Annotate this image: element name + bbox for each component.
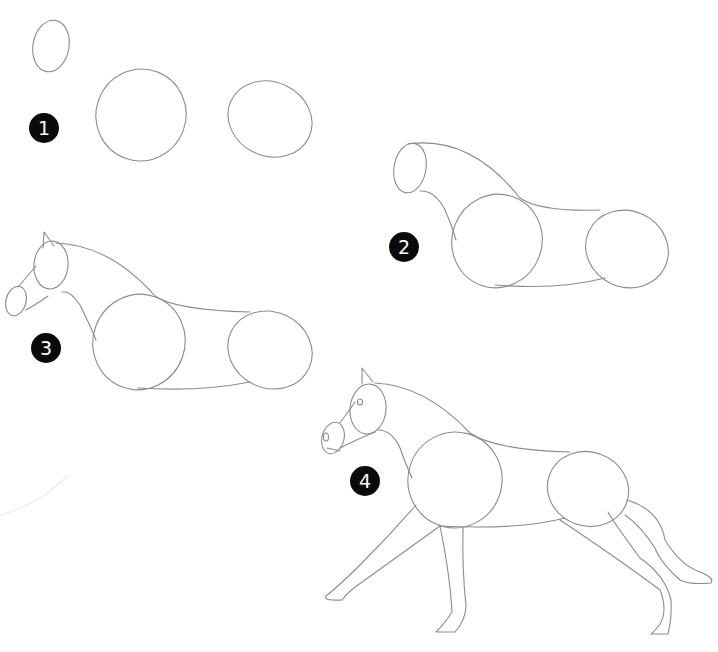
chest-oval [79, 281, 198, 403]
ear [362, 368, 373, 384]
neck-bottom-line [420, 191, 456, 240]
muzzle-bottom-line [340, 432, 375, 448]
hip-oval [215, 67, 324, 170]
neck-bottom-line [62, 292, 96, 340]
step-1-drawing [29, 17, 325, 173]
head-oval [32, 240, 70, 291]
neck-top-line [56, 243, 250, 312]
neck-top-line [408, 143, 600, 210]
step-badge-4: 4 [350, 466, 380, 496]
head-oval [29, 17, 73, 74]
chest-oval [439, 181, 556, 300]
belly-line [440, 518, 565, 527]
step-badge-1: 1 [29, 113, 59, 143]
neck-bottom-line [378, 430, 412, 478]
drawing-canvas [0, 0, 718, 652]
muzzle-oval [2, 284, 29, 318]
chest-oval [397, 421, 513, 538]
hip-oval [215, 297, 325, 402]
tail [625, 500, 712, 584]
step-3-drawing [2, 232, 325, 403]
mouth-line [327, 448, 340, 451]
eye [358, 399, 363, 405]
chest-oval [83, 56, 199, 173]
step-badge-3: 3 [31, 333, 61, 363]
neck-top-line [375, 383, 570, 452]
nostril [324, 433, 329, 441]
step-2-drawing [390, 141, 681, 302]
front-leg-supporting [436, 526, 466, 632]
head-oval [348, 383, 388, 436]
muzzle-bottom-line [26, 296, 48, 310]
muzzle-top-line [18, 266, 36, 287]
step-badge-2: 2 [389, 232, 419, 262]
hind-leg [560, 512, 671, 634]
muzzle-oval [318, 420, 348, 457]
head-oval [390, 141, 430, 196]
belly-line [138, 382, 250, 389]
ear [43, 232, 54, 248]
faint-stroke [0, 475, 68, 515]
hip-oval [537, 440, 639, 538]
step-4-drawing [318, 368, 712, 634]
muzzle-top-line [340, 402, 355, 423]
hip-oval [573, 197, 681, 301]
front-leg-extended [326, 505, 440, 600]
